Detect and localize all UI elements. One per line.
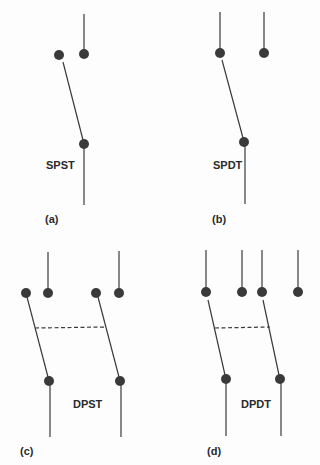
spst-terminal-contact: [79, 49, 89, 59]
dpdt-pivot2-contact: [275, 374, 285, 384]
panel-b-spdt-switch: [220, 12, 264, 204]
dpst-blade-1: [27, 297, 48, 377]
panel-a-caption: (a): [45, 213, 58, 225]
dpst-pole2-contact: [114, 288, 124, 298]
dpdt-pole2-contact-a: [257, 287, 267, 297]
dpst-blade2-tip-contact: [91, 288, 101, 298]
panel-b-caption: (b): [212, 213, 226, 225]
dpdt-pole1-contact-b: [237, 287, 247, 297]
dpdt-blade-2: [263, 300, 279, 375]
spdt-left-contact: [215, 48, 225, 58]
dpdt-blade-1: [208, 300, 225, 375]
spst-blade: [63, 62, 83, 140]
spdt-blade: [222, 60, 243, 138]
spst-blade-tip-contact: [54, 50, 64, 60]
dpdt-label: DPDT: [241, 398, 271, 410]
dpst-blade-2: [98, 297, 119, 377]
dpst-label: DPST: [73, 398, 102, 410]
spdt-label: SPDT: [213, 159, 242, 171]
panel-a-spst-switch: [63, 14, 84, 205]
spdt-right-contact: [259, 48, 269, 58]
dpst-mechanical-link: [35, 327, 106, 328]
switch-types-diagram: SPST (a) SPDT (b) DPST (c) DPDT (d): [0, 0, 320, 465]
spst-pivot-contact: [79, 139, 89, 149]
dpst-pivot1-contact: [44, 376, 54, 386]
dpst-pole1-contact: [43, 288, 53, 298]
dpdt-pole1-contact-a: [201, 287, 211, 297]
dpst-blade1-tip-contact: [21, 288, 31, 298]
panel-c-caption: (c): [20, 445, 33, 457]
panel-d-caption: (d): [207, 445, 221, 457]
dpdt-pole2-contact-b: [293, 287, 303, 297]
spdt-pivot-contact: [239, 137, 249, 147]
diagram-graphics: [0, 0, 320, 465]
dpdt-pivot1-contact: [221, 374, 231, 384]
dpst-pivot2-contact: [115, 376, 125, 386]
spst-label: SPST: [46, 159, 75, 171]
dpdt-mechanical-link: [215, 327, 270, 328]
